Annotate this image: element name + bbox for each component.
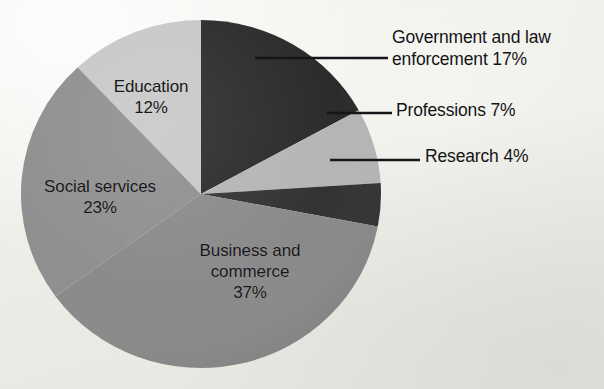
slice-label-education: Education 12% bbox=[72, 76, 230, 118]
slice-label-social-services: Social services 23% bbox=[14, 176, 186, 218]
slice-label-business-and-commerce: Business and commerce 37% bbox=[160, 240, 340, 303]
pie-chart-figure: Education 12% Social services 23% Busine… bbox=[0, 0, 604, 389]
callout-label-government-and-law-enforcement: Government and law enforcement 17% bbox=[392, 26, 604, 70]
callout-label-research: Research 4% bbox=[425, 145, 604, 167]
callout-label-professions: Professions 7% bbox=[396, 99, 604, 121]
